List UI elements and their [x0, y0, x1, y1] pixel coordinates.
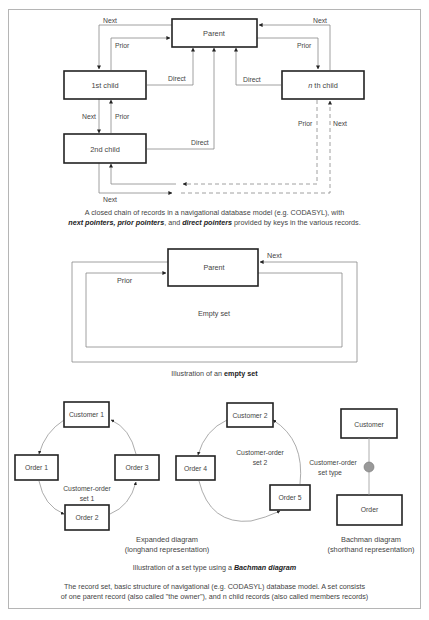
- direct-label: Direct: [168, 75, 186, 82]
- prior-label: Prior: [298, 120, 313, 127]
- nth-child-label: n th child: [308, 81, 338, 90]
- diagram-canvas: Parent 1st child 2nd child n th child Ne…: [0, 0, 429, 620]
- bachman-set-label: Customer-order: [309, 459, 357, 466]
- empty-set-label: Empty set: [198, 309, 230, 318]
- set1-label: set 1: [80, 495, 95, 502]
- prior-label: Prior: [115, 113, 130, 120]
- order5-label: Order 5: [278, 494, 301, 501]
- parent-label: Parent: [203, 29, 225, 38]
- set2-label: Customer-order: [236, 449, 284, 456]
- bachman-customer-label: Customer: [354, 421, 384, 428]
- chain-caption-line1: A closed chain of records in a navigatio…: [8, 208, 421, 218]
- footer-caption: The record set, basic structure of navig…: [8, 582, 421, 602]
- prior-label: Prior: [297, 42, 312, 49]
- empty-set-caption: Illustration of an empty set: [8, 369, 421, 379]
- bachman-diagram-caption: Bachman diagram (shorthand representatio…: [322, 535, 420, 555]
- bachman-set-label: set type: [318, 469, 342, 477]
- order4-label: Order 4: [184, 465, 207, 472]
- next-label: Next: [103, 17, 117, 24]
- prior-label: Prior: [115, 42, 130, 49]
- next-label: Next: [267, 251, 282, 260]
- empty-set-parent-label: Parent: [203, 263, 224, 272]
- chain-caption: A closed chain of records in a navigatio…: [8, 208, 421, 228]
- bachman-set-connector-icon: [364, 462, 374, 472]
- order3-label: Order 3: [125, 464, 148, 471]
- order2-label: Order 2: [75, 514, 98, 521]
- chain-caption-line2: next pointers, prior pointers, and direc…: [8, 218, 421, 228]
- first-child-label: 1st child: [91, 81, 118, 90]
- customer1-label: Customer 1: [69, 411, 104, 418]
- bachman-order-label: Order: [361, 506, 379, 513]
- next-label: Next: [313, 17, 327, 24]
- direct-label: Direct: [191, 139, 209, 146]
- order1-label: Order 1: [25, 464, 48, 471]
- bachman-caption: Illustration of a set type using a Bachm…: [8, 563, 421, 573]
- direct-label: Direct: [243, 76, 261, 83]
- customer2-label: Customer 2: [232, 412, 267, 419]
- set2-label: set 2: [253, 459, 268, 466]
- set1-label: Customer-order: [63, 485, 111, 492]
- navigational-chain-diagram: [99, 25, 330, 193]
- next-label: Next: [333, 120, 347, 127]
- expanded-diagram-caption: Expanded diagram (longhand representatio…: [112, 535, 222, 555]
- second-child-label: 2nd child: [90, 145, 120, 154]
- prior-label: Prior: [117, 276, 133, 285]
- next-label: Next: [82, 113, 96, 120]
- next-label: Next: [103, 196, 117, 203]
